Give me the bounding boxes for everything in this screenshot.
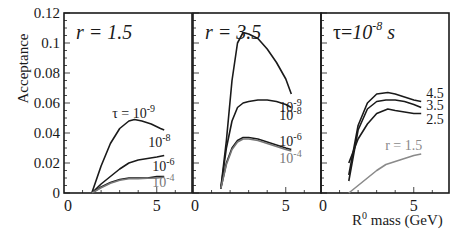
chart-panel-1: 0500.020.040.060.080.10.12r = 1.5τ = 10-… [34, 5, 192, 214]
series-label: 10-8 [279, 105, 301, 123]
series-line [349, 109, 421, 163]
chart-panel-3: 05τ=10-8 s4.53.52.5r = 1.5 [319, 13, 449, 214]
panel-title: r = 3.5 [205, 21, 261, 43]
series-label: 10-4 [152, 172, 174, 190]
series-label: 10-8 [148, 132, 170, 150]
series-label: 2.5 [426, 112, 444, 127]
y-tick-label: 0.1 [41, 35, 60, 51]
series-label: r = 1.5 [385, 138, 422, 153]
y-tick-label: 0.12 [34, 5, 60, 21]
x-tick-label: 0 [191, 197, 199, 214]
y-tick-label: 0 [53, 185, 61, 201]
series-label: 10-6 [279, 131, 301, 149]
series-label: 10-6 [152, 156, 174, 174]
x-tick-label: 0 [64, 197, 72, 214]
x-tick-label: 0 [319, 197, 327, 214]
y-tick-label: 0.02 [34, 155, 60, 171]
panel-title: τ=10-8 s [333, 19, 395, 43]
x-tick-label: 5 [153, 197, 161, 214]
acceptance-chart: 0500.020.040.060.080.10.12r = 1.5τ = 10-… [0, 0, 458, 236]
y-tick-label: 0.08 [34, 65, 60, 81]
series-label: 3.5 [426, 98, 444, 113]
y-tick-label: 0.06 [34, 95, 61, 111]
x-tick-label: 5 [410, 197, 418, 214]
y-tick-label: 0.04 [34, 125, 61, 141]
series-line [349, 93, 421, 176]
panel-title: r = 1.5 [76, 21, 132, 43]
x-tick-label: 5 [282, 197, 290, 214]
series-line [349, 154, 421, 193]
chart-panel-2: 05r = 3.510-910-810-610-4 [191, 13, 321, 214]
series-label: τ = 10-9 [112, 103, 155, 121]
series-label: 10-4 [279, 148, 301, 166]
